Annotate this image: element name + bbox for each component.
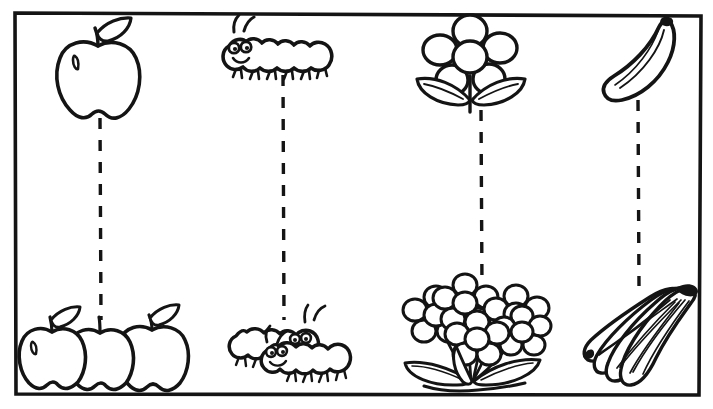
connector-apple[interactable] bbox=[100, 118, 101, 320]
banana-one-illustration[interactable] bbox=[603, 17, 674, 101]
caterpillars-many-illustration[interactable] bbox=[229, 305, 350, 382]
apple-one-illustration[interactable] bbox=[57, 18, 140, 118]
connector-group bbox=[100, 75, 639, 320]
apples-many-illustration[interactable] bbox=[19, 305, 188, 391]
worksheet-canvas bbox=[0, 0, 713, 409]
flower-one-illustration[interactable] bbox=[417, 15, 525, 112]
connector-caterpillar[interactable] bbox=[283, 75, 284, 320]
flowers-many-illustration[interactable] bbox=[403, 274, 551, 391]
connector-flower[interactable] bbox=[481, 110, 482, 288]
caterpillar-one-illustration[interactable] bbox=[223, 15, 332, 79]
worksheet-page: Singular and Plural Matching Worksheet A… bbox=[0, 0, 713, 409]
connector-banana[interactable] bbox=[638, 100, 639, 286]
